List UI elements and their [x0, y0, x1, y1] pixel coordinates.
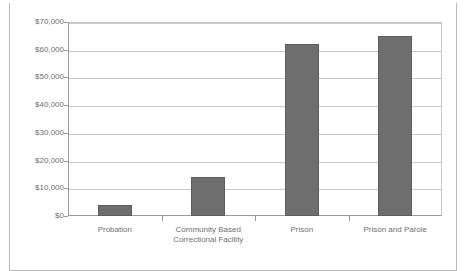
x-axis-tick	[255, 216, 256, 221]
y-axis-tick-label: $70,000	[4, 18, 64, 26]
y-axis-tick-label: $20,000	[4, 157, 64, 165]
y-axis-tick-label: $40,000	[4, 101, 64, 109]
x-axis-tick-label: Community BasedCorrectional Facility	[162, 225, 256, 245]
y-axis-tick-label: $30,000	[4, 129, 64, 137]
x-axis-label-line: Probation	[68, 225, 162, 235]
x-axis-label-line: Prison	[255, 225, 349, 235]
bar	[98, 205, 132, 216]
y-axis-tick-label: $50,000	[4, 73, 64, 81]
y-axis-tick-label: $60,000	[4, 46, 64, 54]
x-axis-tick	[162, 216, 163, 221]
bar-series	[68, 22, 442, 216]
bar	[378, 36, 412, 216]
x-axis-labels: ProbationCommunity BasedCorrectional Fac…	[68, 225, 442, 255]
y-axis-tick-label: $0	[4, 212, 64, 220]
x-axis-label-line: Community Based	[162, 225, 256, 235]
x-axis-tick-label: Probation	[68, 225, 162, 235]
y-axis-labels: $0$10,000$20,000$30,000$40,000$50,000$60…	[0, 0, 64, 259]
x-axis-label-line: Correctional Facility	[162, 235, 256, 245]
x-axis-tick-label: Prison and Parole	[349, 225, 443, 235]
x-axis-tick	[349, 216, 350, 221]
bar	[285, 44, 319, 216]
y-axis-tick-label: $10,000	[4, 184, 64, 192]
x-axis-tick-label: Prison	[255, 225, 349, 235]
bar	[191, 177, 225, 216]
x-axis-label-line: Prison and Parole	[349, 225, 443, 235]
y-axis-tick	[64, 216, 68, 217]
